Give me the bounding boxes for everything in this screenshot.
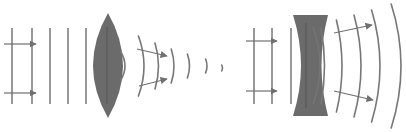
curved-wavefront (171, 49, 174, 83)
converging-lens-panel (4, 13, 223, 118)
curved-wavefront (222, 65, 223, 71)
concave-lens (293, 15, 328, 116)
curved-wavefront (187, 54, 189, 78)
diagram-canvas (0, 0, 406, 132)
outgoing-ray-arrow (334, 25, 372, 33)
curved-wavefront (372, 10, 380, 122)
curved-wavefront (391, 4, 401, 128)
curved-wavefront (354, 15, 361, 117)
lens-wavefront-diagram (0, 0, 406, 132)
outgoing-ray-arrow (137, 49, 167, 56)
diverging-lens-panel (246, 4, 401, 128)
curved-wavefront (336, 20, 342, 112)
convex-lens (93, 13, 123, 118)
curved-wavefront (138, 36, 144, 96)
curved-wavefront (206, 59, 207, 73)
